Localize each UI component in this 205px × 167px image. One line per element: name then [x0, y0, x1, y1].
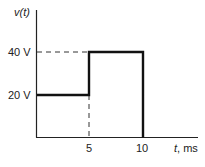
y-tick-40v: 40 V	[8, 46, 31, 58]
x-tick-5: 5	[86, 142, 92, 154]
y-axis-label: v(t)	[14, 6, 30, 18]
x-axis-label: t, ms	[174, 142, 198, 154]
y-tick-20v: 20 V	[8, 89, 31, 101]
step-waveform-chart: v(t) 40 V 20 V 5 10 t, ms	[0, 0, 205, 167]
x-tick-10: 10	[136, 142, 148, 154]
waveform-trace	[37, 52, 143, 138]
